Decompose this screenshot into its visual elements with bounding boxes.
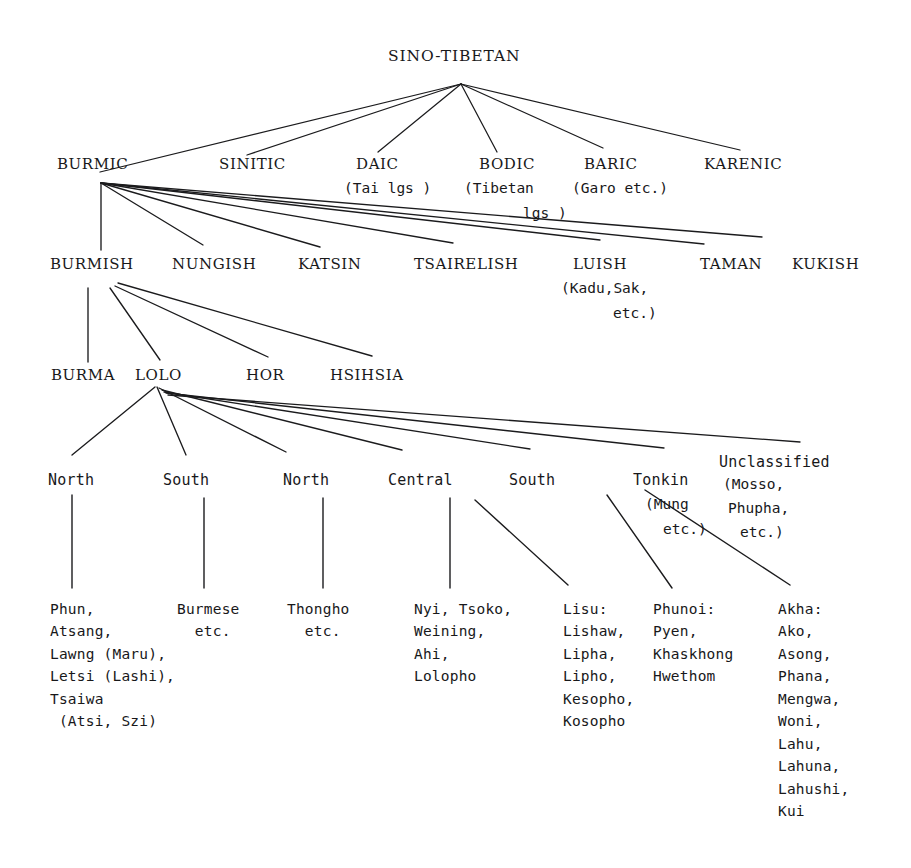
edge-lolo-central	[162, 390, 402, 450]
edge-burmish-hsihsia	[118, 283, 372, 356]
leaf-burma-north: Phun, Atsang, Lawng (Maru), Letsi (Lashi…	[50, 598, 175, 733]
node-hor[interactable]: HOR	[246, 366, 284, 386]
node-burma[interactable]: BURMA	[51, 366, 115, 386]
edge-lolo-south1	[157, 387, 186, 455]
node-hsihsia[interactable]: HSIHSIA	[330, 366, 404, 386]
node-burmic[interactable]: BURMIC	[57, 155, 128, 175]
gloss-bodic: (Tibetan	[464, 178, 534, 199]
leaf-lolo-north: Thongho etc.	[287, 598, 350, 643]
gloss-luish: (Kadu,Sak,	[561, 278, 648, 299]
leaf-lolo-central: Nyi, Tsoko, Weining, Ahi, Lolopho	[414, 598, 512, 688]
node-baric[interactable]: BARIC	[584, 155, 638, 175]
node-katsin[interactable]: KATSIN	[298, 255, 362, 275]
sino-tibetan-tree-figure: SINO-TIBETAN BURMIC SINITIC DAIC (Tai lg…	[0, 0, 911, 868]
edge-burmish-hor	[115, 286, 268, 357]
node-lolo-north[interactable]: North	[283, 470, 329, 491]
edge-root-baric	[461, 84, 603, 148]
node-lolo-central[interactable]: Central	[388, 470, 453, 491]
node-luish[interactable]: LUISH	[573, 255, 627, 275]
leaf-burma-south: Burmese etc.	[177, 598, 240, 643]
edge-burmic-nungish	[101, 183, 203, 245]
node-daic[interactable]: DAIC	[356, 155, 399, 175]
edge-root-bodic	[461, 84, 497, 152]
node-karenic[interactable]: KARENIC	[704, 155, 782, 175]
node-lolo[interactable]: LOLO	[135, 366, 182, 386]
gloss-unclassified-2: Phupha,	[728, 498, 789, 519]
node-nungish[interactable]: NUNGISH	[172, 255, 256, 275]
gloss-daic: (Tai lgs )	[344, 178, 431, 199]
edge-lolo-north1	[72, 387, 155, 455]
leaf-lolo-unclassified: Akha: Ako, Asong, Phana, Mengwa, Woni, L…	[778, 598, 849, 823]
edge-root-karenic	[461, 84, 740, 150]
node-bodic[interactable]: BODIC	[479, 155, 535, 175]
node-lolo-south[interactable]: South	[509, 470, 555, 491]
gloss-tonkin: (Mung	[645, 494, 689, 515]
edge-lolo-tonkin	[166, 393, 664, 448]
node-tsairelish[interactable]: TSAIRELISH	[414, 255, 519, 275]
leaf-lolo-south: Lisu: Lishaw, Lipha, Lipho, Kesopho, Kos…	[563, 598, 634, 733]
gloss-tonkin-cont: etc.)	[663, 519, 707, 540]
gloss-baric: (Garo etc.)	[572, 178, 668, 199]
node-sino-tibetan[interactable]: SINO-TIBETAN	[388, 46, 520, 66]
node-lolo-tonkin[interactable]: Tonkin	[633, 470, 688, 491]
node-lolo-unclassified[interactable]: Unclassified	[719, 452, 830, 473]
gloss-unclassified: (Mosso,	[723, 474, 784, 495]
node-burma-north[interactable]: North	[48, 470, 94, 491]
node-kukish[interactable]: KUKISH	[792, 255, 859, 275]
edge-burmish-lolo	[110, 288, 160, 360]
gloss-unclassified-3: etc.)	[740, 522, 784, 543]
node-burmish[interactable]: BURMISH	[50, 255, 134, 275]
edge-south2-leaf	[475, 500, 568, 585]
node-burma-south[interactable]: South	[163, 470, 209, 491]
edge-root-sinitic	[247, 84, 461, 155]
edge-lolo-unclass	[168, 395, 800, 442]
edge-burmic-katsin	[101, 183, 320, 247]
gloss-luish-cont: etc.)	[613, 303, 657, 324]
edge-root-daic	[378, 84, 461, 152]
edge-lolo-north2	[159, 388, 286, 452]
node-sinitic[interactable]: SINITIC	[219, 155, 286, 175]
gloss-bodic-cont: lgs )	[523, 203, 567, 224]
tree-edges	[0, 0, 911, 868]
edge-lolo-south2	[164, 392, 530, 449]
node-taman[interactable]: TAMAN	[700, 255, 762, 275]
leaf-lolo-tonkin: Phunoi: Pyen, Khaskhong Hwethom	[653, 598, 733, 688]
